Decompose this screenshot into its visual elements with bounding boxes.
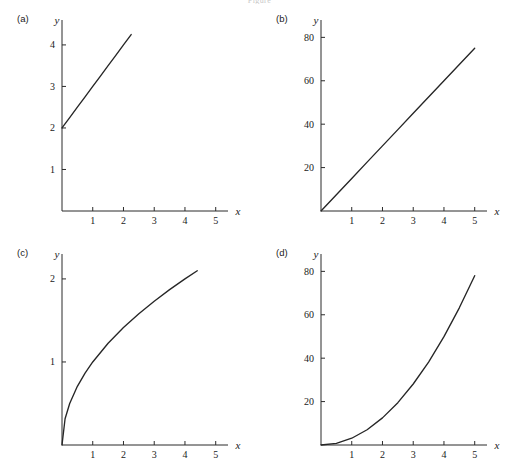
panel-d-xlabel: x bbox=[494, 439, 500, 451]
panel-a-xtick-label: 4 bbox=[182, 215, 187, 226]
panel-a-ytick-label: 3 bbox=[50, 81, 55, 92]
panel-d-ytick-label: 20 bbox=[304, 396, 314, 407]
panel-a-xtick-label: 5 bbox=[213, 215, 218, 226]
panel-d-plot: 1234520406080 y x bbox=[259, 234, 518, 468]
panel-b-ticklabels: 1234520406080 bbox=[304, 32, 477, 226]
panel-b: (b) 1234520406080 y x bbox=[259, 0, 518, 234]
panel-c-xtick-label: 3 bbox=[152, 449, 157, 460]
panel-c-ticks bbox=[62, 279, 216, 445]
panel-d-xtick-label: 4 bbox=[441, 449, 446, 460]
panel-a-plot: 123451234 y x bbox=[0, 0, 259, 234]
panel-d-ylabel: y bbox=[313, 248, 319, 260]
panel-d-curve bbox=[321, 276, 475, 445]
panel-d-xtick-label: 5 bbox=[472, 449, 477, 460]
panel-b-xtick-label: 4 bbox=[441, 215, 446, 226]
panel-c-axes bbox=[62, 254, 228, 445]
panel-d: (d) 1234520406080 y x bbox=[259, 234, 518, 468]
panel-a-ytick-label: 2 bbox=[50, 122, 55, 133]
panel-d-xtick-label: 1 bbox=[349, 449, 354, 460]
panel-a: (a) 123451234 y x bbox=[0, 0, 259, 234]
panel-b-ticks bbox=[321, 37, 475, 211]
panel-c-xtick-label: 5 bbox=[213, 449, 218, 460]
panel-a-ticklabels: 123451234 bbox=[50, 39, 218, 226]
panel-a-axes bbox=[62, 20, 228, 211]
panel-d-ytick-label: 80 bbox=[304, 266, 314, 277]
panel-b-ytick-label: 40 bbox=[304, 119, 314, 130]
figure-container: Figure (a) 123451234 y x (b) 12345204060… bbox=[0, 0, 519, 468]
panel-c-ylabel: y bbox=[54, 248, 60, 260]
panel-b-ytick-label: 60 bbox=[304, 75, 314, 86]
panel-b-ytick-label: 20 bbox=[304, 162, 314, 173]
panel-a-xtick-label: 3 bbox=[152, 215, 157, 226]
panel-c-ytick-label: 2 bbox=[50, 273, 55, 284]
panel-a-xtick-label: 1 bbox=[90, 215, 95, 226]
panel-b-xtick-label: 3 bbox=[411, 215, 416, 226]
figure-caption-bottom bbox=[6, 464, 519, 468]
panel-a-ytick-label: 1 bbox=[50, 164, 55, 175]
panel-d-ytick-label: 40 bbox=[304, 353, 314, 364]
panel-b-xlabel: x bbox=[494, 205, 500, 217]
panel-d-axes bbox=[321, 254, 487, 445]
panel-b-ytick-label: 80 bbox=[304, 32, 314, 43]
panel-a-ticks bbox=[62, 45, 216, 211]
panel-c: (c) 1234512 y x bbox=[0, 234, 259, 468]
panel-a-curve bbox=[62, 35, 131, 128]
panel-b-xtick-label: 2 bbox=[380, 215, 385, 226]
panel-d-ytick-label: 60 bbox=[304, 309, 314, 320]
panel-d-xtick-label: 3 bbox=[411, 449, 416, 460]
panel-c-xtick-label: 4 bbox=[182, 449, 187, 460]
panel-b-axes bbox=[321, 20, 487, 211]
panel-a-ylabel: y bbox=[54, 14, 60, 26]
panel-b-xtick-label: 5 bbox=[472, 215, 477, 226]
panel-c-ytick-label: 1 bbox=[50, 356, 55, 367]
panel-b-plot: 1234520406080 y x bbox=[259, 0, 518, 234]
panel-d-xtick-label: 2 bbox=[380, 449, 385, 460]
panel-c-curve bbox=[62, 271, 197, 445]
panel-b-ylabel: y bbox=[313, 14, 319, 26]
panel-c-xtick-label: 2 bbox=[121, 449, 126, 460]
panel-a-xlabel: x bbox=[235, 205, 241, 217]
panel-a-ytick-label: 4 bbox=[50, 39, 55, 50]
panel-d-ticklabels: 1234520406080 bbox=[304, 266, 477, 460]
panel-a-xtick-label: 2 bbox=[121, 215, 126, 226]
panel-c-xlabel: x bbox=[235, 439, 241, 451]
panel-b-curve bbox=[321, 48, 475, 211]
panel-c-ticklabels: 1234512 bbox=[50, 273, 218, 460]
panel-c-xtick-label: 1 bbox=[90, 449, 95, 460]
panel-c-plot: 1234512 y x bbox=[0, 234, 259, 468]
panel-d-ticks bbox=[321, 271, 475, 445]
panel-b-xtick-label: 1 bbox=[349, 215, 354, 226]
